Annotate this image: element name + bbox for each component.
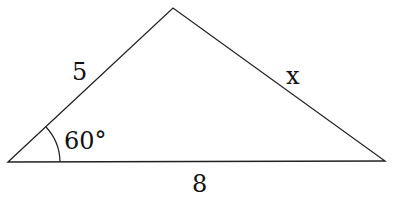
side-bottom-label: 8 xyxy=(192,170,207,198)
angle-arc xyxy=(46,127,60,162)
side-right-label: x xyxy=(286,62,300,90)
side-left-label: 5 xyxy=(72,58,87,86)
triangle-diagram: 5 x 60° 8 xyxy=(0,0,394,202)
angle-label: 60° xyxy=(64,127,107,155)
